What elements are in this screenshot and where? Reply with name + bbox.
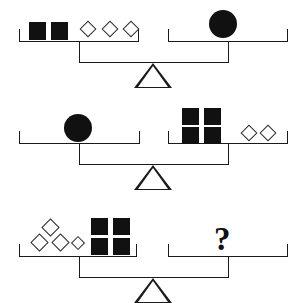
weight-diamond bbox=[33, 236, 46, 249]
weight-square bbox=[204, 108, 221, 125]
weight-square bbox=[91, 238, 108, 255]
weight-square bbox=[182, 127, 199, 144]
balance-scale-2 bbox=[0, 100, 303, 201]
question-mark: ? bbox=[214, 223, 231, 256]
weight-diamond bbox=[262, 127, 274, 139]
weight-square bbox=[204, 127, 221, 144]
balance-scale-3: ? bbox=[0, 198, 303, 299]
pan-line bbox=[19, 256, 137, 257]
balance-1-right-drop bbox=[228, 41, 229, 62]
weight-diamond bbox=[243, 127, 255, 139]
weight-circle bbox=[64, 114, 92, 142]
weight-diamond bbox=[125, 23, 137, 35]
weight-diamond bbox=[73, 238, 83, 248]
weight-square bbox=[91, 218, 108, 235]
weight-square bbox=[51, 22, 68, 40]
balance-1-fulcrum bbox=[134, 63, 172, 88]
balance-3-left-drop bbox=[79, 256, 80, 277]
balance-puzzle-figure: ? bbox=[0, 0, 303, 303]
weight-square bbox=[182, 108, 199, 125]
weight-square bbox=[113, 238, 130, 255]
balance-3-fulcrum bbox=[134, 278, 172, 303]
weight-diamond bbox=[44, 221, 57, 234]
weight-diamond bbox=[104, 23, 116, 35]
weight-diamond bbox=[54, 236, 67, 249]
balance-2-right-drop bbox=[228, 143, 229, 164]
balance-2-left-drop bbox=[79, 143, 80, 164]
balance-3-right-drop bbox=[228, 256, 229, 277]
balance-1-left-drop bbox=[79, 41, 80, 62]
weight-square bbox=[29, 22, 46, 40]
balance-2-fulcrum bbox=[134, 165, 172, 190]
weight-square bbox=[113, 218, 130, 235]
balance-scale-1 bbox=[0, 0, 303, 101]
weight-diamond bbox=[82, 23, 94, 35]
weight-circle bbox=[209, 10, 237, 38]
